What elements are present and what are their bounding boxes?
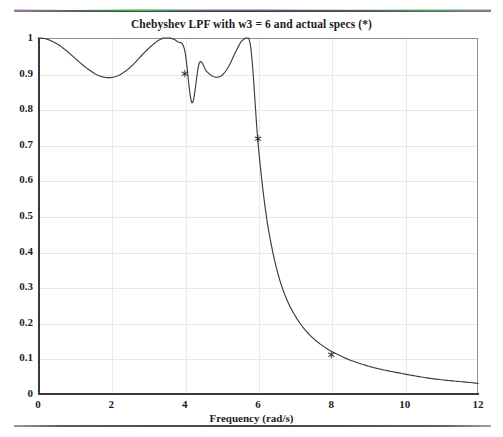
y-tick-label: 0.3	[0, 280, 33, 292]
y-tick-label: 0.4	[0, 245, 33, 257]
x-axis-line	[38, 393, 479, 395]
scan-color-fringe	[14, 9, 491, 11]
x-tick-label: 10	[385, 398, 425, 410]
x-tick-label: 2	[91, 398, 131, 410]
grid-line-horizontal	[39, 324, 477, 325]
grid-line-horizontal	[39, 253, 477, 254]
spec-marker: *	[252, 136, 265, 149]
y-axis-line	[38, 38, 40, 395]
x-tick-label: 8	[311, 398, 351, 410]
grid-line-vertical	[186, 39, 187, 393]
spec-marker: *	[178, 71, 191, 84]
grid-line-horizontal	[39, 217, 477, 218]
scanned-page: Chebyshev LPF with w3 = 6 and actual spe…	[0, 0, 503, 437]
y-tick-label: 0.6	[0, 173, 33, 185]
x-tick-label: 0	[18, 398, 58, 410]
x-tick-label: 12	[458, 398, 498, 410]
y-tick-label: 0.5	[0, 209, 33, 221]
x-tick-label: 4	[165, 398, 205, 410]
grid-line-vertical	[332, 39, 333, 393]
grid-line-horizontal	[39, 288, 477, 289]
grid-line-horizontal	[39, 359, 477, 360]
spec-marker: *	[325, 352, 338, 365]
grid-line-horizontal	[39, 110, 477, 111]
y-tick-label: 0.8	[0, 102, 33, 114]
plot-area	[38, 38, 478, 394]
grid-line-horizontal	[39, 75, 477, 76]
grid-line-vertical	[112, 39, 113, 393]
y-tick-label: 1	[0, 31, 33, 43]
y-tick-label: 0.1	[0, 351, 33, 363]
x-axis-title: Frequency (rad/s)	[0, 412, 503, 424]
grid-line-vertical	[406, 39, 407, 393]
y-tick-label: 0.9	[0, 67, 33, 79]
y-tick-label: 0.7	[0, 138, 33, 150]
page-bottom-rule	[14, 425, 491, 427]
y-tick-label: 0.2	[0, 316, 33, 328]
grid-line-horizontal	[39, 181, 477, 182]
chart-title: Chebyshev LPF with w3 = 6 and actual spe…	[0, 18, 503, 30]
x-tick-label: 6	[238, 398, 278, 410]
grid-line-vertical	[259, 39, 260, 393]
